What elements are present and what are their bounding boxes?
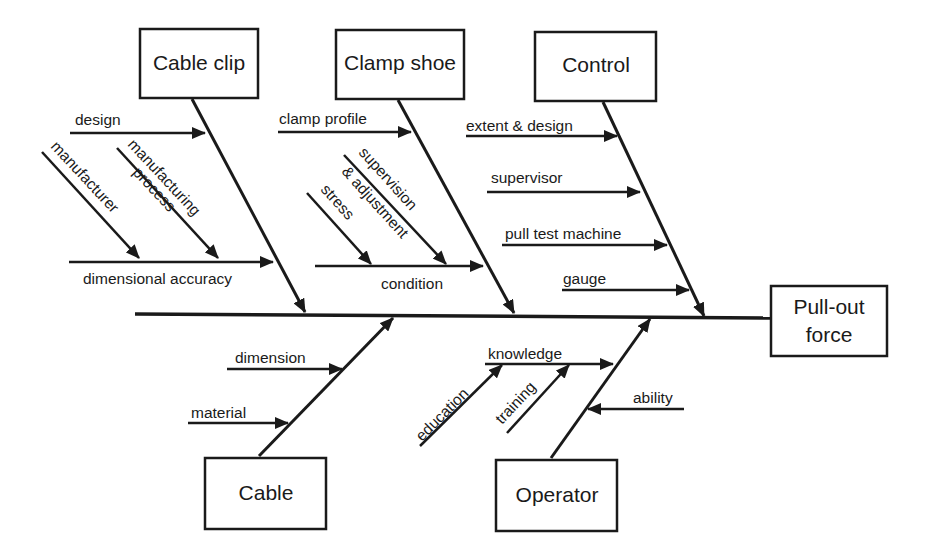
effect-label-line2: force (806, 323, 853, 346)
category-label-operator: Operator (516, 483, 599, 506)
cause-gauge: gauge (563, 270, 606, 287)
cause-supervisor: supervisor (491, 169, 563, 186)
arrow-manufacturer (42, 152, 139, 258)
category-control: Control extent & design supervisor pull … (466, 32, 704, 316)
cause-dimension: dimension (235, 349, 306, 366)
category-label-cable: Cable (239, 481, 294, 504)
cause-education: education (412, 385, 472, 445)
category-cable-clip: Cable clip design dimensional accuracy m… (42, 29, 305, 312)
category-label-cable-clip: Cable clip (153, 51, 245, 74)
spine-line (135, 314, 771, 318)
effect-box: Pull-out force (771, 286, 887, 356)
category-label-clamp-shoe: Clamp shoe (344, 51, 456, 74)
cause-ability: ability (633, 389, 673, 406)
cause-condition: condition (381, 275, 443, 292)
category-cable: Cable dimension material (188, 318, 393, 529)
cause-dimensional-accuracy: dimensional accuracy (83, 270, 232, 287)
category-label-control: Control (562, 53, 630, 76)
category-clamp-shoe: Clamp shoe clamp profile condition stres… (278, 30, 514, 313)
cause-pull-test-machine: pull test machine (505, 225, 621, 242)
cause-material: material (191, 404, 246, 421)
cause-extent-design: extent & design (466, 117, 573, 134)
cause-clamp-profile: clamp profile (279, 110, 367, 127)
fishbone-diagram: Pull-out force Cable clip design dimensi… (0, 0, 929, 559)
bone-cable (259, 318, 393, 456)
cause-design: design (75, 111, 121, 128)
cause-manufacturer: manufacturer (48, 137, 123, 215)
cause-training: training (492, 378, 539, 427)
cause-knowledge: knowledge (488, 345, 562, 362)
category-operator: Operator knowledge education training ab… (412, 319, 684, 531)
effect-label-line1: Pull-out (793, 295, 864, 318)
bone-control (603, 102, 704, 316)
